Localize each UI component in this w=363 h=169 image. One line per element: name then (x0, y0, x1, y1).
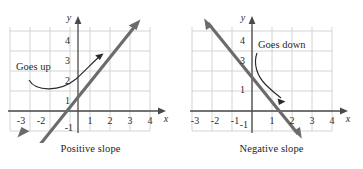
x-axis-label: x (345, 113, 351, 124)
positive-slope-plot: y x -3 -2 1 2 3 4 4 3 2 1 -1 Goes up (0, 0, 181, 143)
x-tick-label: -2 (211, 115, 219, 126)
goes-down-curved-arrow-icon (255, 53, 285, 105)
x-tick-label: -3 (17, 115, 25, 126)
x-axis-label: x (163, 113, 169, 124)
x-axis (8, 108, 166, 115)
negative-slope-plot: y x -3 -2 -1 1 2 3 4 4 3 1 -1 Goes down (181, 0, 362, 143)
y-tick-label: 3 (65, 55, 70, 66)
panel-negative-slope: y x -3 -2 -1 1 2 3 4 4 3 1 -1 Goes down … (181, 0, 362, 169)
y-tick-label: 3 (240, 55, 245, 66)
slope-comparison-figure: y x -3 -2 1 2 3 4 4 3 2 1 -1 Goes up Pos… (0, 0, 363, 169)
x-tick-label: 2 (108, 115, 113, 126)
y-tick-label: -1 (65, 122, 73, 133)
x-tick-label: 3 (310, 115, 315, 126)
x-tick-label: 2 (290, 115, 295, 126)
x-tick-label: 1 (270, 115, 275, 126)
x-axis (190, 108, 348, 115)
annotation-goes-down-label: Goes down (258, 39, 306, 50)
x-tick-label: 4 (148, 115, 153, 126)
y-tick-label: 4 (240, 35, 245, 46)
y-axis-label: y (66, 12, 72, 23)
y-tick-label: 1 (240, 84, 245, 95)
caption-positive-slope: Positive slope (0, 143, 181, 154)
panel-positive-slope: y x -3 -2 1 2 3 4 4 3 2 1 -1 Goes up Pos… (0, 0, 181, 169)
y-tick-label: 4 (65, 35, 70, 46)
caption-negative-slope: Negative slope (181, 143, 362, 154)
x-tick-label: -1 (231, 115, 239, 126)
y-tick-label: 1 (65, 95, 70, 106)
x-tick-label: -2 (37, 115, 45, 126)
x-tick-label: 1 (88, 115, 93, 126)
x-tick-label: -3 (191, 115, 199, 126)
y-tick-label: -1 (240, 119, 248, 130)
y-axis-label: y (240, 12, 246, 23)
x-tick-label: 3 (128, 115, 133, 126)
x-tick-label: 4 (330, 115, 335, 126)
annotation-goes-up-label: Goes up (16, 61, 51, 72)
